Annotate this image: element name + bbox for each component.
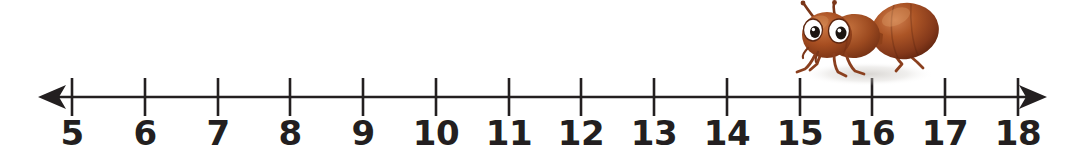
- ant-illustration: [782, 0, 952, 90]
- ant-graphic: [782, 0, 952, 90]
- ant-shadow: [802, 62, 934, 86]
- number-line-worksheet: 56789101112131415161718: [0, 0, 1090, 161]
- tick-label-18: 18: [973, 116, 1063, 150]
